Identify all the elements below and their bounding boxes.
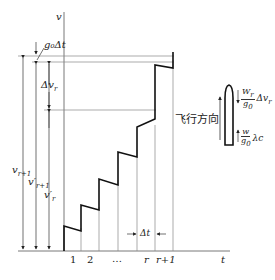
x-tick-r1: r+1 [156, 255, 176, 265]
rocket-icon [225, 85, 233, 145]
velocity-staircase [64, 52, 173, 251]
x-tick-2: 2 [87, 255, 93, 265]
v-axis-label: v [56, 12, 62, 22]
staircase-velocity-diagram [0, 0, 275, 280]
t-axis-label: t [221, 255, 225, 265]
vp-r-label: v′r [44, 190, 55, 203]
dimension-arrows [23, 42, 49, 249]
x-tick-r: r [144, 255, 149, 265]
flight-direction-label: 飞行方向 [175, 110, 219, 126]
exhaust-term: wg0 λc [241, 128, 263, 148]
delta-vr-label: Δvr [41, 80, 57, 93]
x-tick-1: 1 [70, 255, 76, 265]
vertical-grid [81, 60, 173, 251]
x-tick-ellipsis: … [112, 254, 122, 264]
thrust-term: Wrg0 Δvr [241, 88, 272, 110]
g0-dt-label: g₀Δt [44, 40, 66, 50]
delta-t-label: Δt [140, 229, 150, 238]
